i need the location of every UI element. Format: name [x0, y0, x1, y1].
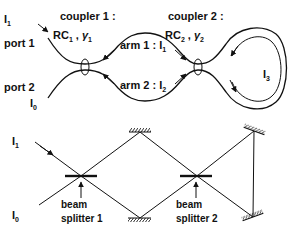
bs1-label-line2: splitter 1 [61, 213, 103, 224]
beam-bs1-to-top-mirror [81, 132, 140, 176]
beam-right-vertical [253, 131, 254, 217]
mirror-top-right [244, 123, 266, 134]
coupler1-title: coupler 1 : [60, 10, 116, 22]
input-arrow-i1 [40, 146, 53, 155]
bottom-input-i1-label: I1 [12, 135, 19, 149]
loop-i3-label: I3 [263, 68, 270, 82]
beam-bs2-to-right-bottom-mirror [197, 176, 253, 217]
top-input-i0-label: I0 [30, 97, 37, 111]
coupler2-coil-icon [194, 59, 202, 75]
free-space-diagram: I1 I0 beam splitter 1 beam splitter 2 [12, 123, 266, 224]
coupler2-title: coupler 2 : [168, 10, 224, 22]
top-input-i1-label: I1 [4, 13, 11, 27]
arm2-arrow-left [103, 74, 114, 84]
bs2-label-line2: splitter 2 [176, 213, 218, 224]
coupler1-params: RC1 , γ1 [53, 29, 92, 43]
input-arrow-port1 [38, 24, 48, 32]
arm2-label: arm 2 : I2 [120, 79, 166, 93]
fiber-ring-diagram: I1 port 1 port 2 I0 coupler 1 : RC1 , γ1… [4, 10, 287, 111]
fiber-loop-inner [232, 37, 281, 102]
beam-top-mirror-to-bs2 [140, 132, 197, 176]
diagram-canvas: I1 port 1 port 2 I0 coupler 1 : RC1 , γ1… [0, 0, 289, 234]
coupler2-params: RC2 , γ2 [165, 29, 204, 43]
beam-bs2-to-right-top-mirror [197, 131, 254, 176]
beam-bs1-to-bottom-mirror [81, 176, 140, 218]
fiber-loop-outer [198, 28, 287, 109]
loop-arrow-bottom [230, 80, 236, 92]
port1-label: port 1 [4, 37, 35, 49]
mirror-top-middle [129, 128, 151, 132]
bs2-label-line1: beam [176, 199, 202, 210]
beam-bottom-mirror-to-bs2 [140, 176, 197, 218]
arm1-arrow-right [175, 50, 186, 60]
port2-label: port 2 [4, 81, 35, 93]
bs1-label-line1: beam [61, 199, 87, 210]
loop-arrow-top [231, 46, 238, 56]
coupler1-coil-icon [81, 59, 89, 75]
arm1-label: arm 1 : I1 [120, 39, 166, 53]
bottom-input-i0-label: I0 [12, 209, 19, 223]
mirror-bottom-middle [128, 218, 151, 222]
arm1-arrow-left [103, 50, 114, 60]
arm2-arrow-right [175, 74, 186, 84]
